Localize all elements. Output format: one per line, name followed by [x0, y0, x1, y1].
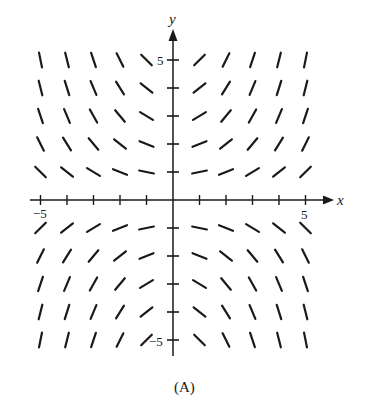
slope-segment: [193, 141, 207, 147]
slope-segment: [139, 227, 154, 230]
slope-segment: [277, 81, 281, 95]
slope-segment: [249, 277, 256, 290]
slope-segment: [277, 53, 281, 68]
slope-segment: [39, 53, 42, 68]
slope-segment: [64, 277, 70, 291]
y-axis-label: y: [167, 11, 176, 27]
slope-segment: [87, 224, 100, 232]
slope-segment: [65, 333, 69, 348]
y-tick-label-max: 5: [157, 53, 164, 68]
slope-segment: [140, 141, 154, 147]
slope-segment: [39, 305, 43, 320]
y-axis: [167, 29, 179, 356]
slope-segment: [250, 53, 255, 67]
slope-segment: [116, 306, 124, 319]
slope-segment: [276, 109, 282, 123]
slope-segment: [65, 53, 69, 68]
slope-segment: [246, 224, 259, 232]
slope-segment: [90, 277, 97, 290]
slope-segment: [219, 169, 233, 175]
slope-segment: [275, 138, 283, 151]
slope-segment: [64, 109, 70, 123]
slope-segment: [91, 81, 97, 95]
slope-segment: [63, 138, 71, 151]
slope-segment: [91, 333, 96, 347]
slope-segment: [276, 277, 282, 291]
slope-segment: [302, 137, 309, 150]
slope-segment: [117, 333, 124, 346]
slope-segment: [117, 53, 124, 66]
slope-segment: [194, 335, 205, 346]
slope-segment: [222, 306, 230, 319]
slope-segment: [222, 82, 230, 95]
slope-segment: [91, 53, 96, 67]
slope-segment: [113, 225, 127, 231]
slope-segment: [87, 168, 100, 176]
slope-segment: [248, 138, 258, 150]
slope-segment: [63, 250, 71, 263]
slope-segment: [140, 253, 154, 259]
slope-segment: [35, 167, 46, 178]
slope-segment: [246, 168, 259, 176]
slope-segment: [192, 227, 207, 230]
slope-segment: [220, 139, 232, 148]
slope-segment: [194, 83, 206, 92]
slope-segment: [91, 305, 97, 319]
slope-segment: [38, 109, 43, 123]
slope-segment: [273, 167, 285, 176]
slope-segment: [303, 109, 308, 123]
slope-segment: [221, 278, 231, 290]
slope-segment: [115, 278, 125, 290]
x-tick-label-max: 5: [301, 207, 308, 222]
slope-segment: [193, 112, 206, 120]
x-axis-label: x: [336, 192, 344, 208]
slope-segment: [223, 333, 230, 346]
slope-segment: [61, 167, 73, 176]
slope-segment: [219, 225, 233, 231]
slope-segment: [35, 223, 46, 234]
slope-segment: [304, 53, 307, 68]
slope-segment: [89, 138, 99, 150]
slope-segment: [194, 55, 205, 66]
slope-segment: [116, 82, 124, 95]
slope-segment: [275, 250, 283, 263]
slope-segment: [114, 251, 126, 260]
figure-caption: (A): [174, 379, 195, 396]
slope-segment: [115, 110, 125, 122]
slope-segment: [37, 249, 44, 262]
slope-segment: [277, 333, 281, 348]
slope-segment: [192, 171, 207, 174]
slope-segment: [39, 81, 43, 96]
slope-segment: [302, 249, 309, 262]
slope-segment: [90, 109, 97, 122]
y-axis-arrow-icon: [169, 29, 178, 41]
slope-segment: [140, 112, 153, 120]
slope-segment: [223, 53, 230, 66]
x-axis-arrow-icon: [323, 196, 334, 205]
slope-segment: [249, 109, 256, 122]
x-tick-label-min: −5: [33, 206, 47, 221]
slope-segment: [194, 307, 206, 316]
slope-segment: [65, 305, 69, 319]
slope-segment: [141, 307, 153, 316]
slope-segment: [37, 137, 44, 150]
slope-segment: [141, 83, 153, 92]
slope-segment: [113, 169, 127, 175]
slope-segment: [304, 81, 308, 96]
slope-segment: [248, 250, 258, 262]
slope-segment: [300, 223, 311, 234]
slope-segment: [250, 81, 256, 95]
slope-segment: [65, 81, 69, 95]
slope-segment: [221, 110, 231, 122]
slope-segment: [303, 277, 308, 291]
slope-field-figure: x y −5 5 5 −5 (A): [0, 0, 373, 406]
slope-segment: [220, 251, 232, 260]
slope-segment: [89, 250, 99, 262]
slope-segment: [277, 305, 281, 319]
slope-segment: [140, 280, 153, 288]
slope-segment: [193, 253, 207, 259]
x-axis: [30, 195, 334, 205]
slope-segment: [39, 333, 42, 348]
slope-segment: [250, 305, 256, 319]
slope-segment: [141, 55, 152, 66]
